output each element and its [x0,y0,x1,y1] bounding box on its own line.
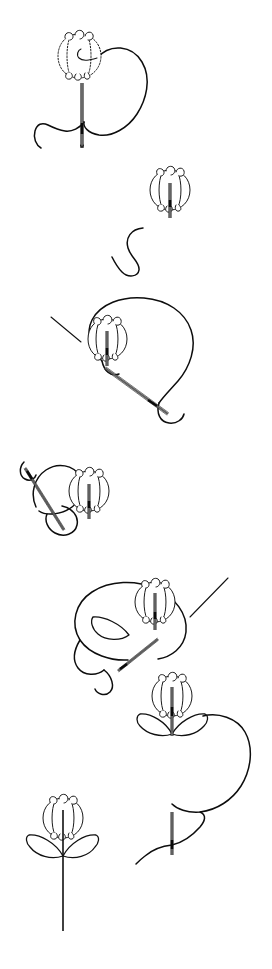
diagram-canvas [0,0,272,969]
bud-base-loop-right [68,833,74,839]
bud-base-loop-right [84,73,90,79]
bud-base-loop-center [75,74,82,80]
bud-base-loop-right [160,617,166,623]
needle-vertical [106,331,108,366]
bud-base-loop-right [175,205,181,211]
page-background [0,0,272,969]
bud-base-loop-right [94,506,100,512]
bud-base-loop-left [143,617,150,623]
bud-base-loop-left [51,833,58,839]
bud-base-loop-left [160,711,167,717]
needle-vertical [171,687,173,736]
bud-base-loop-left [95,354,102,360]
bud-base-loop-right [177,711,183,717]
needle-vertical [154,593,156,630]
needle [81,83,84,148]
bud-outline [58,34,101,78]
needle [169,183,172,218]
bud-base-loop-right [112,354,118,360]
needle-vertical [88,484,90,519]
bud-base-loop-center [59,834,66,840]
bud-base-loop-left [158,205,165,211]
bud-base-loop-left [66,73,73,79]
embroidery-diagram-sheet: Embroidery Stitch Diagram Flower motif w… [0,0,272,969]
bud-base-loop-left [77,506,84,512]
needle-second [171,812,173,855]
